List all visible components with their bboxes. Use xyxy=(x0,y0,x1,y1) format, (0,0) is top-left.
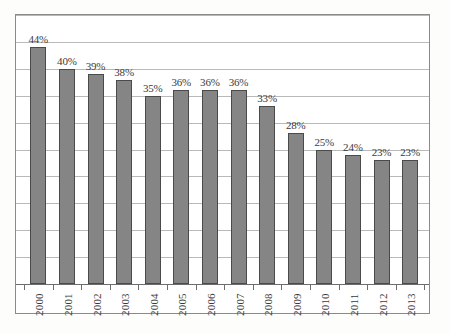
bar[interactable] xyxy=(116,80,132,284)
axis-tick xyxy=(367,285,368,290)
category-label-2009: 2009 xyxy=(291,293,303,316)
bar-value-label: 28% xyxy=(279,119,313,131)
axis-tick xyxy=(196,285,197,290)
bar[interactable] xyxy=(374,160,390,284)
category-label-2005: 2005 xyxy=(176,293,188,316)
bar-value-label: 33% xyxy=(250,92,284,104)
bar-value-label: 36% xyxy=(222,76,256,88)
scan-artifact-text xyxy=(8,322,442,332)
bar[interactable] xyxy=(59,69,75,284)
bar[interactable] xyxy=(30,47,46,284)
category-label-2000: 2000 xyxy=(33,293,45,316)
axis-tick xyxy=(53,285,54,290)
axis-tick xyxy=(138,285,139,290)
scanned-page: 44%40%39%38%35%36%36%36%33%28%25%24%23%2… xyxy=(0,0,450,334)
category-label-2006: 2006 xyxy=(205,293,217,316)
axis-tick xyxy=(224,285,225,290)
axis-tick xyxy=(167,285,168,290)
bar-value-label: 38% xyxy=(107,66,141,78)
bar[interactable] xyxy=(231,90,247,284)
bar[interactable] xyxy=(202,90,218,284)
bar[interactable] xyxy=(145,96,161,284)
bar-value-label: 44% xyxy=(21,33,55,45)
bar-value-label: 23% xyxy=(393,146,427,158)
bar[interactable] xyxy=(345,155,361,284)
gridline xyxy=(16,257,429,258)
category-label-2004: 2004 xyxy=(148,293,160,316)
category-label-2010: 2010 xyxy=(319,293,331,316)
axis-tick xyxy=(253,285,254,290)
category-label-2012: 2012 xyxy=(377,293,389,316)
bar[interactable] xyxy=(316,150,332,285)
axis-tick xyxy=(339,285,340,290)
axis-tick xyxy=(110,285,111,290)
gridline xyxy=(16,203,429,204)
category-label-2013: 2013 xyxy=(405,293,417,316)
gridline xyxy=(16,96,429,97)
bar[interactable] xyxy=(402,160,418,284)
category-label-2001: 2001 xyxy=(62,293,74,316)
axis-tick xyxy=(281,285,282,290)
category-label-2011: 2011 xyxy=(348,294,360,316)
axis-tick xyxy=(424,285,425,290)
gridline xyxy=(16,230,429,231)
gridline xyxy=(16,15,429,16)
bar[interactable] xyxy=(288,133,304,284)
axis-tick xyxy=(81,285,82,290)
bar[interactable] xyxy=(88,74,104,284)
category-label-2003: 2003 xyxy=(119,293,131,316)
category-label-2008: 2008 xyxy=(262,293,274,316)
bar[interactable] xyxy=(173,90,189,284)
chart-frame: 44%40%39%38%35%36%36%36%33%28%25%24%23%2… xyxy=(15,14,430,314)
gridline xyxy=(16,42,429,43)
category-label-2002: 2002 xyxy=(91,293,103,316)
gridline xyxy=(16,123,429,124)
axis-tick xyxy=(310,285,311,290)
category-label-2007: 2007 xyxy=(234,293,246,316)
bar[interactable] xyxy=(259,106,275,284)
axis-tick xyxy=(396,285,397,290)
gridline xyxy=(16,176,429,177)
axis-tick xyxy=(24,285,25,290)
